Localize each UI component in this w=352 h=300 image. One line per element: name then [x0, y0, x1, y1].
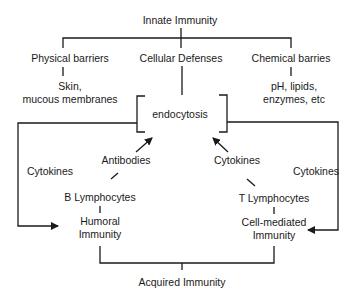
humoral-immunity-line2: Immunity [79, 228, 122, 241]
connector-lines [0, 0, 352, 300]
chemical-barriers-detail-1: pH, lipids, [271, 80, 317, 93]
physical-barriers-detail-2: mucous membranes [22, 93, 117, 106]
right-arrow-cytokines-label: Cytokines [214, 154, 260, 167]
cellular-defenses-label: Cellular Defenses [140, 52, 223, 65]
chemical-barriers-label: Chemical barries [252, 52, 331, 65]
cell-mediated-immunity-line2: Immunity [253, 229, 296, 242]
t-lymphocytes-label: T Lymphocytes [239, 192, 310, 205]
chemical-barriers-detail-2: enzymes, etc [263, 93, 325, 106]
innate-immunity-title: Innate Immunity [143, 14, 218, 27]
acquired-immunity-label: Acquired Immunity [139, 276, 226, 289]
b-lymphocytes-label: B Lymphocytes [64, 191, 135, 204]
physical-barriers-detail-1: Skin, [58, 80, 81, 93]
antibodies-label: Antibodies [101, 154, 150, 167]
humoral-immunity-line1: Humoral [80, 215, 120, 228]
right-cytokines-label: Cytokines [293, 165, 339, 178]
endocytosis-label: endocytosis [152, 108, 207, 121]
left-cytokines-label: Cytokines [27, 165, 73, 178]
physical-barriers-label: Physical barriers [31, 52, 109, 65]
cell-mediated-immunity-line1: Cell-mediated [242, 216, 307, 229]
